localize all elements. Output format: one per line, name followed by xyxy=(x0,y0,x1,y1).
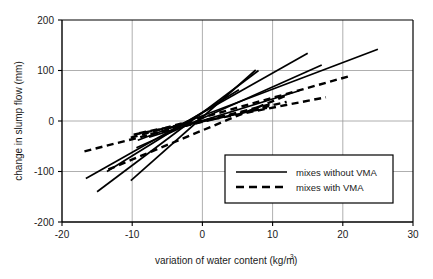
legend-label-with-vma: mixes with VMA xyxy=(296,182,364,193)
x-tick-label: 20 xyxy=(337,229,349,240)
legend-box xyxy=(225,155,393,203)
y-axis-title-text: change in slump flow (mm) xyxy=(13,61,24,180)
chart-legend: mixes without VMA mixes with VMA xyxy=(225,155,393,203)
x-axis-title-text: variation of water content (kg/m xyxy=(155,255,295,266)
x-axis-title: variation of water content (kg/m 3 ) xyxy=(155,253,297,266)
y-tick-label: -200 xyxy=(34,217,54,228)
slump-flow-chart: variation of water content (kg/m 3 ) cha… xyxy=(0,0,433,279)
x-tick-label: -20 xyxy=(55,229,70,240)
y-tick-label: 0 xyxy=(48,116,54,127)
x-tick-labels: -20-100102030 xyxy=(55,229,419,240)
x-tick-label: -10 xyxy=(125,229,140,240)
chart-container: variation of water content (kg/m 3 ) cha… xyxy=(0,0,433,279)
y-tick-labels: -200-1000100200 xyxy=(34,15,54,228)
x-tick-label: 10 xyxy=(267,229,279,240)
y-tick-label: -100 xyxy=(34,166,54,177)
x-axis-title-tail: ) xyxy=(294,255,297,266)
y-tick-label: 200 xyxy=(37,15,54,26)
legend-label-without-vma: mixes without VMA xyxy=(296,167,377,178)
x-tick-label: 30 xyxy=(407,229,419,240)
y-tick-label: 100 xyxy=(37,65,54,76)
x-tick-label: 0 xyxy=(200,229,206,240)
